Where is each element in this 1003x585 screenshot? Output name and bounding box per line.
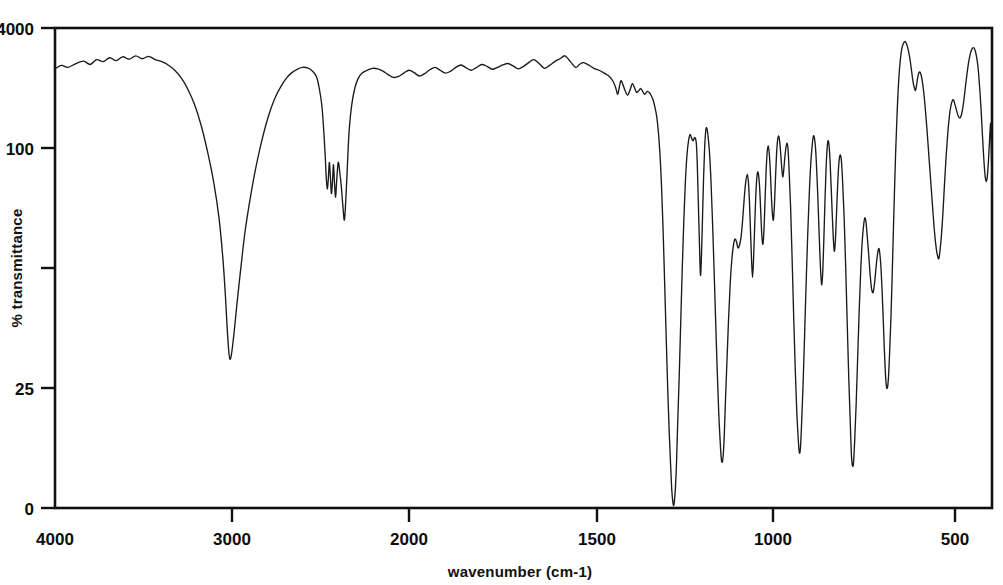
y-axis-title: % transmittance [8,209,25,328]
x-tick-label-3000: 3000 [213,530,251,549]
y-tick-label-25: 25 [15,380,34,399]
spectrum-trace [55,41,992,505]
x-tick-label-4000: 4000 [36,530,74,549]
spectrum-plot-area: 4000 100 25 0 4000 3000 2000 1500 1000 5… [0,0,1003,585]
y-tick-label-100: 4000 [0,20,34,39]
y-tick-label-75: 100 [6,140,34,159]
x-tick-label-1000: 1000 [754,530,792,549]
plot-frame [55,28,992,508]
x-axis-ticks [232,508,955,522]
x-tick-label-500: 500 [941,530,969,549]
x-tick-label-1500: 1500 [578,530,616,549]
y-tick-label-0: 0 [25,500,34,519]
x-axis-title: wavenumber (cm-1) [447,563,592,580]
ir-spectrum-chart: 4000 100 25 0 4000 3000 2000 1500 1000 5… [0,0,1003,585]
y-axis-ticks [41,28,55,508]
x-tick-label-2000: 2000 [390,530,428,549]
